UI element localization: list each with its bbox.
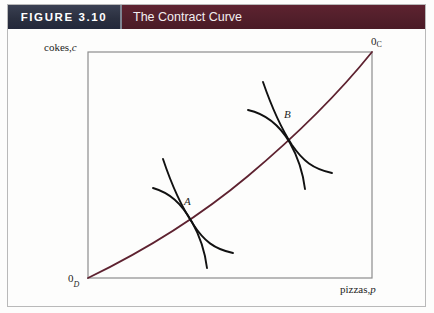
origin-c-subscript: C [377,40,382,49]
contract-curve [88,52,372,278]
y-axis-label: cokes,c [44,41,77,53]
origin-c-label: 0C [371,35,382,47]
y-axis-variable: c [72,41,77,53]
indifference-curve-c-at-b [248,110,305,189]
x-axis-label: pizzas,p [340,283,376,295]
indifference-curve-d-at-a [163,159,233,253]
x-axis-label-text: pizzas, [340,283,370,295]
origin-d-zero: 0 [68,272,74,284]
origin-c-zero: 0 [371,35,377,47]
y-axis-label-text: cokes, [44,41,72,53]
point-b-label: B [284,108,291,120]
figure-container: FIGURE 3.10 The Contract Curve cokes,c [0,0,434,313]
point-a-label: A [184,195,191,207]
origin-d-subscript: D [74,280,80,289]
plot-area: cokes,c pizzas,p 0D 0C A B [0,0,434,313]
edgeworth-box [88,52,372,278]
x-axis-variable: p [370,283,376,295]
origin-d-label: 0D [68,272,79,287]
